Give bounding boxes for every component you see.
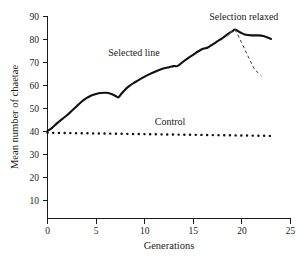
y-tick-label-40: 40 [30,127,40,137]
y-tick-label-50: 50 [30,104,40,114]
chart-figure: 90 80 70 60 50 40 30 20 10 0 5 10 15 20 … [0,0,303,258]
series-control-line [48,133,272,136]
x-axis-title: Generations [144,240,195,251]
x-tick-label-5: 5 [94,226,99,236]
x-tick-label-0: 0 [45,226,50,236]
control-label: Control [155,116,186,127]
y-tick-label-60: 60 [30,81,40,91]
x-tick-label-10: 10 [140,226,150,236]
x-tick-label-25: 25 [286,226,296,236]
y-tick-label-70: 70 [30,58,40,68]
y-tick-label-90: 90 [30,12,40,22]
y-tick-labels-group: 90 80 70 60 50 40 30 20 10 [30,12,40,206]
x-tick-labels-group: 0 5 10 15 20 25 [45,226,295,236]
selected-line-label: Selected line [108,47,160,58]
x-tick-label-15: 15 [189,226,199,236]
y-tick-label-10: 10 [30,196,40,206]
series-selection-relaxed [235,30,261,76]
selection-relaxed-label: Selection relaxed [209,11,278,22]
x-ticks-group [48,219,291,224]
y-tick-label-30: 30 [30,150,40,160]
y-axis-title: Mean number of chaetae [9,65,20,169]
y-tick-label-20: 20 [30,173,40,183]
y-tick-label-80: 80 [30,35,40,45]
y-ticks-group [43,17,48,201]
chart-canvas: 90 80 70 60 50 40 30 20 10 0 5 10 15 20 … [0,0,303,258]
x-tick-label-20: 20 [237,226,247,236]
